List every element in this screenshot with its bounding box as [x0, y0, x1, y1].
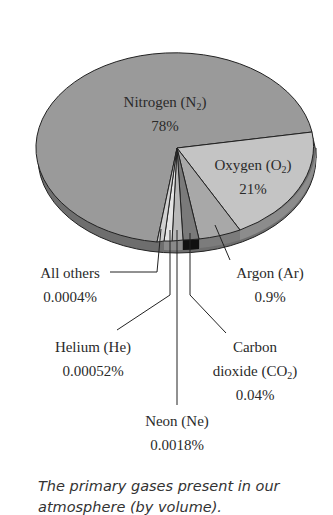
chart-caption: The primary gases present in our atmosph… — [38, 476, 318, 515]
label-helium: Helium (He) 0.00052% — [38, 335, 148, 383]
label-oxygen: Oxygen (O2) 21% — [198, 153, 308, 201]
label-neon: Neon (Ne) 0.0018% — [127, 409, 227, 457]
value-nitrogen: 78% — [100, 114, 230, 138]
value-argon: 0.9% — [225, 285, 315, 309]
value-co2: 0.04% — [200, 383, 310, 407]
label-others: All others 0.0004% — [30, 261, 110, 309]
value-oxygen: 21% — [198, 177, 308, 201]
label-co2: Carbon dioxide (CO2) 0.04% — [200, 335, 310, 407]
value-neon: 0.0018% — [127, 433, 227, 457]
label-nitrogen: Nitrogen (N2) 78% — [100, 90, 230, 138]
value-others: 0.0004% — [30, 285, 110, 309]
value-helium: 0.00052% — [38, 359, 148, 383]
label-argon: Argon (Ar) 0.9% — [225, 261, 315, 309]
pie-top — [36, 53, 314, 242]
